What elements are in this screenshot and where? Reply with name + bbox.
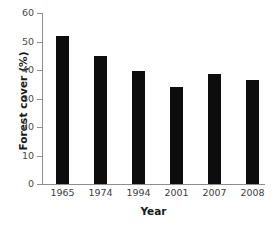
x-axis-line <box>42 184 265 185</box>
y-tick-label: 50 <box>0 37 34 47</box>
y-tick-label: 20 <box>0 122 34 132</box>
y-tick-label: 30 <box>0 94 34 104</box>
bar <box>208 74 221 184</box>
y-tick-mark <box>37 99 42 100</box>
y-tick-label: 40 <box>0 65 34 75</box>
bar-chart: Forest cover (%) 6050403020100 196519741… <box>0 0 279 227</box>
x-axis-title: Year <box>42 205 265 217</box>
y-tick-label: 60 <box>0 8 34 18</box>
y-tick-label: 0 <box>0 179 34 189</box>
bar <box>170 87 183 184</box>
x-tick-label: 2008 <box>231 188 275 198</box>
y-tick-mark <box>37 184 42 185</box>
bar <box>246 80 259 184</box>
y-tick-mark <box>37 127 42 128</box>
bar <box>132 71 145 184</box>
bar <box>94 56 107 184</box>
y-tick-mark <box>37 70 42 71</box>
y-tick-mark <box>37 42 42 43</box>
y-tick-label: 10 <box>0 151 34 161</box>
bar <box>56 36 69 184</box>
plot-area: 6050403020100 196519741994200120072008 <box>0 0 279 227</box>
y-tick-mark <box>37 13 42 14</box>
y-axis-line <box>42 13 43 184</box>
y-tick-mark <box>37 156 42 157</box>
